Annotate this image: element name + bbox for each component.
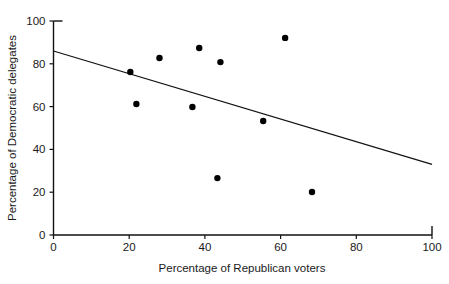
- y-tick-label: 0: [39, 229, 45, 241]
- data-point-marker: [260, 118, 266, 124]
- tick-marks: [50, 21, 433, 239]
- data-points: [127, 35, 315, 195]
- data-point-marker: [282, 35, 288, 41]
- x-tick-label: 60: [274, 241, 287, 253]
- data-point-marker: [214, 175, 220, 181]
- x-axis-title: Percentage of Republican voters: [159, 262, 326, 274]
- regression-line: [54, 51, 433, 164]
- y-tick-label: 40: [33, 143, 46, 155]
- x-tick-label: 20: [123, 241, 136, 253]
- x-tick-label: 100: [422, 241, 441, 253]
- data-point-marker: [133, 101, 139, 107]
- x-tick-labels: 020406080100: [50, 241, 441, 253]
- data-point-marker: [217, 59, 223, 65]
- data-point-marker: [127, 69, 133, 75]
- data-point-marker: [196, 45, 202, 51]
- chart-canvas: 020406080100 020406080100 Percentage of …: [0, 0, 449, 284]
- y-tick-label: 80: [33, 58, 46, 70]
- x-tick-label: 80: [350, 241, 363, 253]
- scatter-plot-figure: 020406080100 020406080100 Percentage of …: [0, 0, 449, 284]
- x-tick-label: 40: [199, 241, 212, 253]
- axes: [54, 21, 433, 235]
- x-tick-label: 0: [50, 241, 56, 253]
- data-point-marker: [309, 189, 315, 195]
- trend-line: [54, 51, 433, 164]
- y-tick-labels: 020406080100: [26, 15, 45, 241]
- y-tick-label: 60: [33, 101, 46, 113]
- y-axis-title: Percentage of Democratic delegates: [6, 35, 18, 221]
- y-tick-label: 100: [26, 15, 45, 27]
- data-point-marker: [156, 55, 162, 61]
- data-point-marker: [189, 104, 195, 110]
- y-tick-label: 20: [33, 186, 46, 198]
